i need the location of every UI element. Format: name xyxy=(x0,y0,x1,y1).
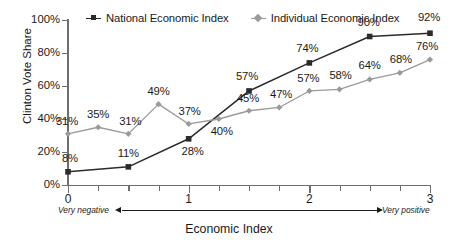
data-point-marker xyxy=(65,169,71,175)
plot-area: 8%11%28%57%74%90%92%31%35%31%49%37%40%45… xyxy=(68,20,430,185)
data-point-marker xyxy=(246,108,252,114)
data-point-marker xyxy=(65,131,71,137)
data-point-marker xyxy=(307,60,313,66)
data-point-label: 8% xyxy=(62,153,78,164)
data-point-marker xyxy=(276,104,282,110)
data-point-label: 40% xyxy=(211,126,233,137)
data-point-marker xyxy=(367,76,373,82)
economic-index-line-chart: National Economic Index Individual Econo… xyxy=(0,0,458,243)
x-axis-tick-minor xyxy=(370,186,371,191)
data-point-marker xyxy=(95,124,101,130)
axis-label-very-negative: Very negative xyxy=(58,205,109,215)
direction-arrow-line xyxy=(122,210,378,211)
x-axis-tick-minor xyxy=(279,186,280,191)
x-axis-tick-minor xyxy=(340,186,341,191)
axis-direction-annotation: Very negative Very positive xyxy=(0,205,458,218)
data-point-label: 57% xyxy=(297,73,319,84)
x-axis-tick-minor xyxy=(128,186,129,191)
axis-label-very-positive: Very positive xyxy=(382,205,430,215)
x-axis-tick-minor xyxy=(249,186,250,191)
data-point-label: 92% xyxy=(418,12,440,23)
data-point-label: 37% xyxy=(179,106,201,117)
data-point-marker xyxy=(397,70,403,76)
data-point-label: 90% xyxy=(358,17,380,28)
data-point-marker xyxy=(367,34,373,40)
data-point-label: 45% xyxy=(237,93,259,104)
x-axis-tick-minor xyxy=(219,186,220,191)
data-point-marker xyxy=(427,57,433,63)
y-axis-tick-label: 0% xyxy=(18,179,60,190)
data-point-label: 47% xyxy=(270,89,292,100)
y-axis-tick xyxy=(62,86,67,87)
x-axis-tick-minor xyxy=(159,186,160,191)
data-point-label: 57% xyxy=(236,71,258,82)
y-axis-title: Clinton Vote Share xyxy=(21,1,33,151)
data-point-label: 28% xyxy=(182,146,204,157)
data-point-marker xyxy=(186,136,192,142)
y-axis-tick xyxy=(62,53,67,54)
data-point-marker xyxy=(336,86,342,92)
data-point-label: 58% xyxy=(329,70,351,81)
data-point-label: 76% xyxy=(416,41,438,52)
x-axis-tick-minor xyxy=(400,186,401,191)
data-point-label: 31% xyxy=(56,116,78,127)
data-point-label: 74% xyxy=(296,43,318,54)
x-axis-tick-minor xyxy=(98,186,99,191)
data-point-label: 64% xyxy=(359,60,381,71)
y-axis-tick xyxy=(62,20,67,21)
data-point-marker xyxy=(126,164,132,170)
data-point-label: 49% xyxy=(147,86,169,97)
data-point-label: 35% xyxy=(87,109,109,120)
data-point-label: 11% xyxy=(118,148,139,159)
y-axis-tick xyxy=(62,185,67,186)
data-point-label: 68% xyxy=(390,54,412,65)
data-point-marker xyxy=(306,88,312,94)
data-point-marker xyxy=(427,30,433,36)
data-point-label: 31% xyxy=(119,116,141,127)
x-axis-title: Economic Index xyxy=(0,222,458,236)
arrow-left-icon xyxy=(115,207,121,213)
